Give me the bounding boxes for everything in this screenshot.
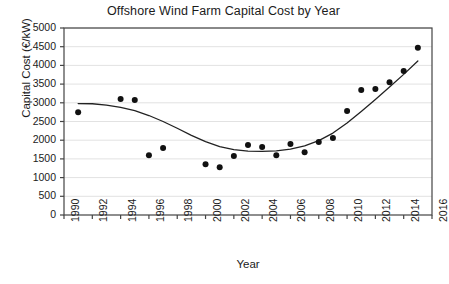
gridlines — [64, 28, 432, 196]
y-tick-label: 1500 — [14, 152, 56, 164]
x-tick-label: 1990 — [69, 199, 81, 222]
y-tick-label: 4000 — [14, 58, 56, 70]
y-tick-label: 3500 — [14, 77, 56, 89]
data-point — [75, 109, 81, 115]
y-tick-label: 3000 — [14, 96, 56, 108]
y-tick-label: 2000 — [14, 133, 56, 145]
y-tick-label: 2500 — [14, 115, 56, 127]
y-tick-label: 4500 — [14, 40, 56, 52]
y-tick-label: 1000 — [14, 171, 56, 183]
trendline — [78, 61, 418, 152]
x-tick-label: 1992 — [97, 199, 109, 222]
x-tick-label: 1996 — [154, 199, 166, 222]
data-point — [415, 45, 421, 51]
data-point — [330, 135, 336, 141]
data-point — [217, 164, 223, 170]
data-point — [132, 97, 138, 103]
data-point — [118, 96, 124, 102]
y-tick-label: 500 — [14, 189, 56, 201]
x-tick-label: 2010 — [352, 199, 364, 222]
data-point — [316, 139, 322, 145]
data-point — [358, 87, 364, 93]
data-point — [259, 144, 265, 150]
data-point — [302, 149, 308, 155]
x-tick-label: 2000 — [211, 199, 223, 222]
x-tick-label: 2012 — [380, 199, 392, 222]
data-point — [344, 108, 350, 114]
data-point — [372, 86, 378, 92]
data-point — [273, 152, 279, 158]
data-point — [146, 152, 152, 158]
x-tick-label: 1998 — [182, 199, 194, 222]
x-tick-label: 1994 — [126, 199, 138, 222]
x-tick-label: 2016 — [437, 199, 449, 222]
data-point — [245, 142, 251, 148]
data-point — [160, 145, 166, 151]
x-tick-label: 2004 — [267, 199, 279, 222]
x-tick-label: 2006 — [295, 199, 307, 222]
data-point — [231, 153, 237, 159]
data-point — [203, 161, 209, 167]
y-tick-label: 0 — [14, 208, 56, 220]
y-tick-label: 5000 — [14, 21, 56, 33]
data-point — [387, 79, 393, 85]
x-tick-label: 2008 — [324, 199, 336, 222]
x-tick-label: 2014 — [409, 199, 421, 222]
data-point — [287, 141, 293, 147]
data-point — [401, 68, 407, 74]
x-tick-label: 2002 — [239, 199, 251, 222]
